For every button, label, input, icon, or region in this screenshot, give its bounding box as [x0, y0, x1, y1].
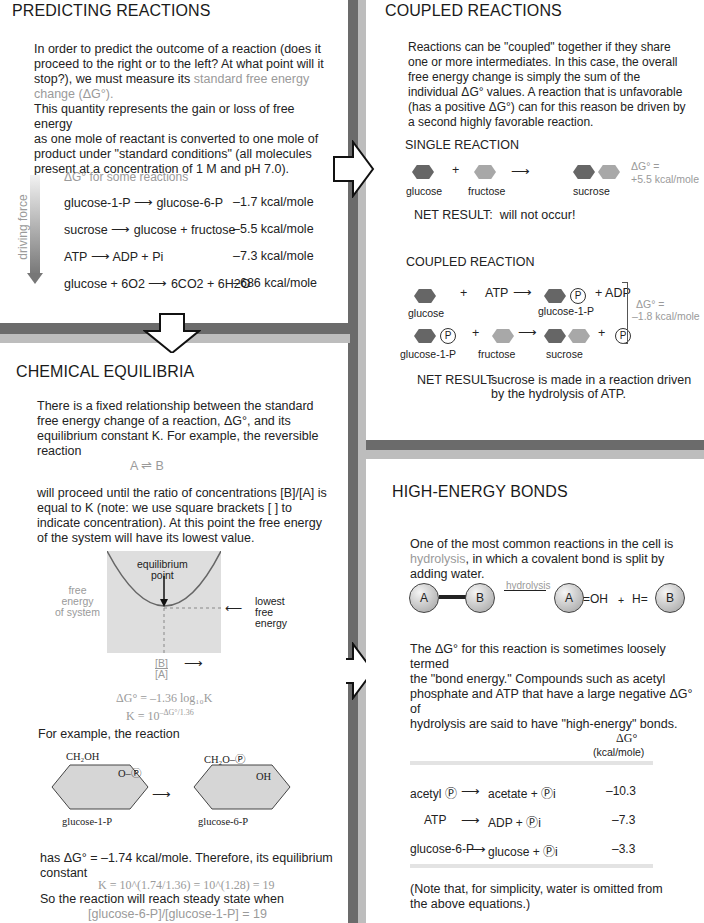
- arrow-icon: ⟶: [511, 164, 530, 179]
- glucose-hexagon: [544, 289, 566, 303]
- table-caption: ΔG° for some reactions: [64, 170, 188, 184]
- frame-bar: [366, 440, 704, 450]
- driving-force-arrow: [30, 175, 40, 275]
- phosphate-icon: P: [570, 288, 586, 304]
- down-arrow-icon: [143, 313, 201, 355]
- sucrose-hexagon: [598, 165, 620, 179]
- atom-b: B: [465, 583, 495, 613]
- delta-g: ΔG° =: [631, 160, 659, 172]
- reaction-value: –686 kcal/mole: [233, 276, 317, 290]
- intro-paragraph: In order to predict the outcome of a rea…: [34, 42, 334, 177]
- glucose-6-p-structure: [192, 763, 292, 813]
- table-rule: [410, 864, 653, 868]
- phosphate-icon: P: [440, 328, 456, 344]
- arrow-icon: [504, 590, 546, 591]
- frame-bar: [358, 0, 366, 923]
- plus-sign: +: [452, 163, 459, 177]
- subsection-title: SINGLE REACTION: [405, 138, 519, 152]
- arrow-left-icon: ⟵: [225, 601, 242, 615]
- table-row: glucose-6-P: [410, 842, 474, 856]
- bracket: [622, 282, 628, 344]
- section-title: CHEMICAL EQUILIBRIA: [16, 363, 194, 381]
- net-result: NET RESULT: will not occur!: [414, 208, 575, 222]
- fructose-hexagon: [492, 329, 514, 343]
- arrow-icon: ⟶: [518, 325, 537, 340]
- glucose-hexagon: [412, 165, 434, 179]
- reaction-value: –1.7 kcal/mole: [233, 195, 314, 209]
- label: glucose: [406, 185, 442, 197]
- frame-bar: [366, 450, 704, 459]
- frame-bar: [348, 0, 358, 923]
- glucose-hexagon: [414, 289, 436, 303]
- atom-a: A: [409, 583, 439, 613]
- net-result: NET RESULT:: [417, 373, 496, 387]
- reaction-row: sucrose ⟶ glucose + fructose: [64, 222, 236, 237]
- arrow-icon: ⟶: [152, 787, 171, 802]
- panel-coupled-reactions: COUPLED REACTIONS Reactions can be "coup…: [368, 0, 704, 438]
- delta-g: +5.5 kcal/mole: [631, 173, 699, 185]
- fructose-hexagon: [474, 165, 496, 179]
- reaction-row: glucose + 6O2 ⟶ 6CO2 + 6H2O: [64, 276, 250, 291]
- sucrose-hexagon: [573, 165, 595, 179]
- subsection-title: COUPLED REACTION: [406, 255, 535, 269]
- label: sucrose: [573, 185, 610, 197]
- right-arrow-icon: [333, 140, 375, 198]
- panel-high-energy-bonds: HIGH-ENERGY BONDS One of the most common…: [366, 461, 704, 923]
- table-row: ATP: [424, 813, 446, 827]
- reaction-value: –7.3 kcal/mole: [233, 249, 314, 263]
- reaction-row: glucose-1-P ⟶ glucose-6-P: [64, 195, 223, 210]
- axis-label: driving force: [16, 194, 30, 259]
- reaction-value: –5.5 kcal/mole: [233, 222, 314, 236]
- section-title: COUPLED REACTIONS: [385, 2, 562, 20]
- free-energy-graph: equilibriumpoint: [107, 551, 221, 653]
- glucose-hexagon: [414, 329, 436, 343]
- reaction-row: ATP ⟶ ADP + Pi: [64, 249, 163, 264]
- arrow-icon: ⟶: [513, 285, 532, 300]
- panel-chemical-equilibria: CHEMICAL EQUILIBRIA There is a fixed rel…: [0, 353, 346, 923]
- table-rule: [410, 761, 653, 765]
- table-row: acetyl Ⓟ: [410, 784, 457, 801]
- label: fructose: [468, 185, 505, 197]
- section-title: HIGH-ENERGY BONDS: [392, 483, 568, 501]
- bond: [439, 595, 466, 599]
- coupled-paragraph: Reactions can be "coupled" together if t…: [408, 40, 698, 130]
- panel-predicting-reactions: PREDICTING REACTIONS In order to predict…: [0, 0, 346, 322]
- section-title: PREDICTING REACTIONS: [12, 2, 210, 20]
- arrow-icon: ⟶: [184, 656, 203, 671]
- arrow-head-icon: [27, 273, 43, 284]
